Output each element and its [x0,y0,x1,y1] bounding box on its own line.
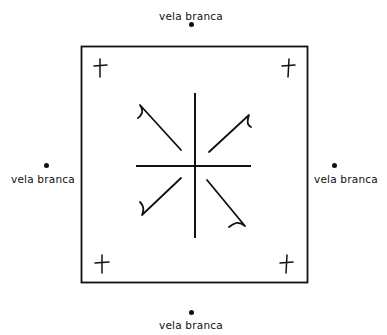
arrow-lower-right-icon [207,180,245,227]
dot-icon [332,163,337,168]
candle-label-left: vela branca [11,173,75,185]
diagram-canvas: vela branca vela branca vela branca vela… [0,0,387,335]
candle-label-top: vela branca [159,10,223,22]
candle-label-bottom: vela branca [159,319,223,331]
center-cross [136,93,251,238]
cross-icon [95,255,109,273]
dot-icon [189,22,194,27]
arrow-lower-left-icon [140,178,181,215]
cross-icon [280,255,293,273]
dot-icon [44,163,49,168]
candle-label-right: vela branca [314,173,378,185]
cross-icon [282,59,295,77]
dot-icon [189,310,194,315]
diagram-svg [0,0,387,335]
cross-icon [94,59,107,77]
arrow-upper-left-icon [138,105,181,150]
arrow-upper-right-icon [209,115,251,152]
